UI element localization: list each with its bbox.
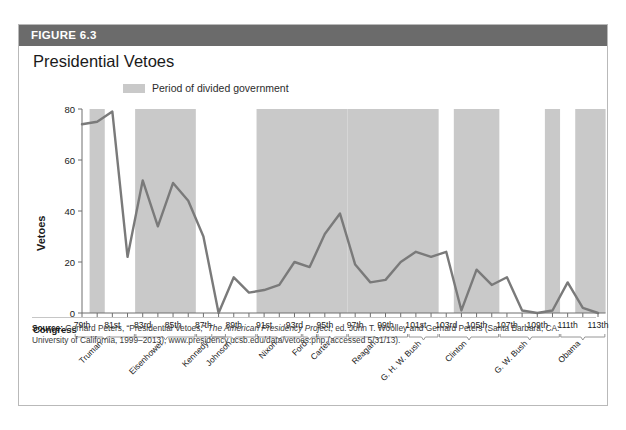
legend-swatch-divided-government [123,84,145,93]
chart-plot-area: Vetoes Congress 02040608079th81st83rd85t… [19,101,609,407]
y-axis-tick-label: 80 [64,104,75,115]
chart-legend: Period of divided government [123,82,289,94]
figure-box: FIGURE 6.3 Presidential Vetoes Period of… [18,24,608,406]
source-divider [32,317,596,318]
shaded-band-divided-government [135,109,196,313]
shaded-band-divided-government [90,109,105,313]
y-axis-tick-label: 40 [64,206,75,217]
y-axis-tick-label: 20 [64,257,75,268]
source-citation: Source: Gerhard Peters, “Presidential Ve… [32,322,598,347]
legend-label-divided-government: Period of divided government [152,82,289,94]
shaded-band-divided-government [545,109,560,313]
y-axis-tick-label: 60 [64,155,75,166]
source-prefix: Source: [32,323,63,333]
figure-title: Presidential Vetoes [33,52,174,71]
y-axis-title: Vetoes [35,216,47,251]
shaded-band-divided-government [348,109,439,313]
shaded-band-divided-government [257,109,348,313]
figure-header-bar: FIGURE 6.3 [19,25,607,46]
source-italic-title: The American Presidency Project [208,323,331,333]
figure-number-label: FIGURE 6.3 [31,29,97,41]
shaded-band-divided-government [575,109,605,313]
vetoes-line-chart: 02040608079th81st83rd85th87th89th91st93r… [19,101,609,393]
source-text-part1: Gerhard Peters, “Presidential Vetoes,” [63,323,208,333]
shaded-band-divided-government [454,109,500,313]
